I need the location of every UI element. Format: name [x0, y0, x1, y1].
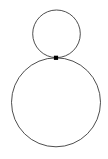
- figure-background: [0, 0, 108, 159]
- diagram-canvas: Two externally tangent circles: [0, 0, 108, 159]
- tangent-circles-figure: Two externally tangent circles: [0, 0, 108, 159]
- tangency-point-marker: [54, 56, 58, 60]
